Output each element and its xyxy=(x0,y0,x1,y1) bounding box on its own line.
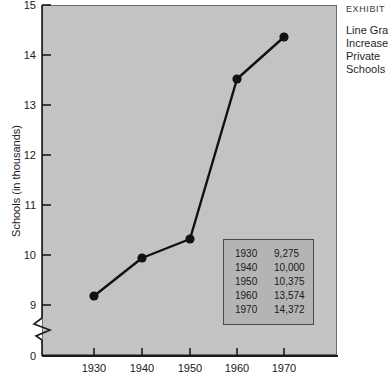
y-axis-label-14: 14 xyxy=(12,50,36,61)
data-point-1950 xyxy=(185,234,194,243)
caption-text: Line Gra Increase Private Schools xyxy=(346,24,392,76)
table-row: 1950 10,375 xyxy=(224,275,313,289)
inset-year-1930: 1930 xyxy=(224,247,264,261)
table-row: 1930 9,275 xyxy=(224,247,313,261)
table-row: 1940 10,000 xyxy=(224,261,313,275)
table-row: 1960 13,574 xyxy=(224,289,313,303)
y-axis-ticks xyxy=(42,5,51,305)
data-point-1970 xyxy=(279,32,288,41)
data-point-1930 xyxy=(89,291,98,300)
inset-value-1930: 9,275 xyxy=(264,247,313,261)
x-axis-ticks xyxy=(94,348,284,356)
x-axis-label-1950: 1950 xyxy=(168,362,212,375)
chart-canvas xyxy=(0,0,392,381)
caption-line-2: Increase xyxy=(346,37,392,50)
figure-caption: Exhibit Line Gra Increase Private School… xyxy=(346,0,392,100)
y-axis-break-icon xyxy=(34,318,50,340)
caption-line-3: Private xyxy=(346,50,392,63)
x-axis-label-1930: 1930 xyxy=(72,362,116,375)
x-axis-label-1960: 1960 xyxy=(215,362,259,375)
data-point-1940 xyxy=(137,253,146,262)
inset-value-1970: 14,372 xyxy=(264,303,313,317)
y-axis-label-15: 15 xyxy=(12,0,36,11)
x-axis-label-1940: 1940 xyxy=(120,362,164,375)
y-axis-label-10: 10 xyxy=(12,250,36,261)
y-axis-label-9: 9 xyxy=(12,300,36,311)
caption-line-4: Schools xyxy=(346,63,392,76)
inset-year-1950: 1950 xyxy=(224,275,264,289)
line-chart-figure: 15 14 13 12 11 10 9 0 Schools (in thousa… xyxy=(0,0,392,381)
inset-year-1970: 1970 xyxy=(224,303,264,317)
x-axis-tick-labels: 1930 1940 1950 1960 1970 xyxy=(0,362,392,378)
inset-value-1950: 10,375 xyxy=(264,275,313,289)
caption-line-1: Line Gra xyxy=(346,24,392,37)
x-axis-label-1970: 1970 xyxy=(262,362,306,375)
inset-year-1960: 1960 xyxy=(224,289,264,303)
data-point-1960 xyxy=(232,74,241,83)
y-axis-label-0: 0 xyxy=(12,351,36,362)
inset-value-1940: 10,000 xyxy=(264,261,313,275)
caption-exhibit-label: Exhibit xyxy=(346,4,392,14)
table-row: 1970 14,372 xyxy=(224,303,313,317)
inset-table: 1930 9,275 1940 10,000 1950 10,375 1960 … xyxy=(224,247,313,317)
inset-data-table: 1930 9,275 1940 10,000 1950 10,375 1960 … xyxy=(223,239,314,325)
y-axis-label-13: 13 xyxy=(12,100,36,111)
y-axis-title: Schools (in thousands) xyxy=(10,111,22,251)
inset-year-1940: 1940 xyxy=(224,261,264,275)
inset-value-1960: 13,574 xyxy=(264,289,313,303)
